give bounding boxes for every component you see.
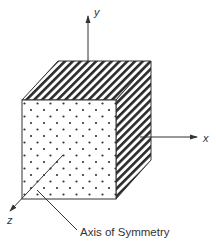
y-axis-label: y <box>93 6 101 18</box>
block-diagram: y x z Axis of Symmetry <box>0 0 216 246</box>
axis-of-symmetry-label: Axis of Symmetry <box>80 226 170 238</box>
x-axis-label: x <box>202 132 209 144</box>
z-axis-label: z <box>6 214 13 226</box>
